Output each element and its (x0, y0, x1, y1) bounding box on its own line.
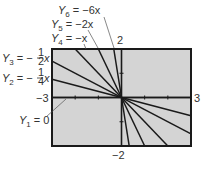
label-y4: Y4 = −x (51, 32, 88, 47)
label-y6: Y6 = −6x (58, 4, 101, 19)
x-min-label: −3 (36, 92, 49, 104)
label-y2: Y2 = − 1 4 x (2, 66, 50, 87)
x-max-label: 3 (194, 92, 200, 104)
label-y1: Y1 = 0 (19, 114, 49, 129)
label-y3: Y3 = − 1 2 x (2, 46, 50, 67)
graph-figure: −3 3 2 −2 Y6 = −6x Y5 = −2x Y4 = −x Y3 =… (0, 0, 201, 169)
y-max-label: 2 (117, 34, 123, 46)
label-y5: Y5 = −2x (51, 18, 94, 33)
svg-text:x: x (43, 72, 50, 84)
svg-text:Y2 = −: Y2 = − (2, 72, 33, 87)
svg-text:x: x (43, 52, 50, 64)
y-min-label: −2 (112, 149, 125, 161)
svg-text:Y3 = −: Y3 = − (2, 52, 33, 67)
